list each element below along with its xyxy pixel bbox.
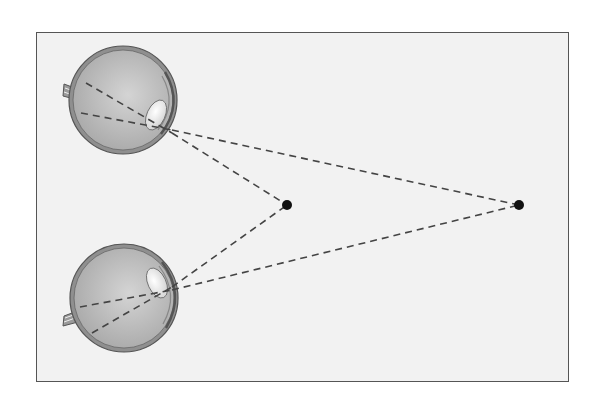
bottom-eye-to-far-point bbox=[172, 205, 519, 290]
near-point-dot bbox=[282, 200, 292, 210]
top-eye-to-far-point bbox=[172, 130, 519, 205]
convergence-diagram bbox=[0, 0, 599, 403]
top-eye-to-near-point bbox=[172, 133, 287, 205]
bottom-eye-icon bbox=[63, 244, 178, 352]
far-point-dot bbox=[514, 200, 524, 210]
bottom-eye-to-near-point bbox=[172, 205, 287, 287]
top-eye-icon bbox=[63, 46, 177, 154]
